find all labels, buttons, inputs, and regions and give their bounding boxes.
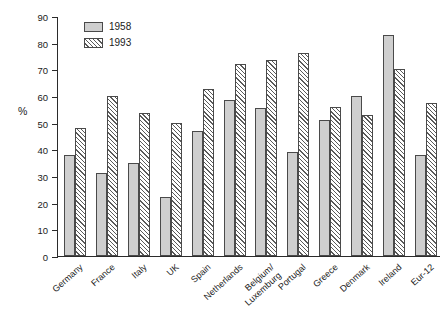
bar-1958 xyxy=(351,96,362,256)
x-tick-label: UK xyxy=(164,262,180,278)
legend-item-1993: 1993 xyxy=(84,36,131,50)
y-tick: 20 xyxy=(52,204,58,205)
bar-1993 xyxy=(139,113,150,256)
bar-1958 xyxy=(383,35,394,256)
bar-1958 xyxy=(160,197,171,256)
x-tick-label: Germany xyxy=(50,262,85,295)
y-tick: 0 xyxy=(52,257,58,258)
y-tick: 50 xyxy=(52,124,58,125)
bar-1993 xyxy=(298,53,309,256)
legend-label-1993: 1993 xyxy=(109,36,131,50)
bar-1993 xyxy=(235,64,246,256)
bar-group xyxy=(415,16,437,256)
legend-swatch-1958 xyxy=(84,22,103,32)
y-tick-label: 90 xyxy=(22,11,48,24)
y-tick-label: 70 xyxy=(22,64,48,77)
y-tick-label: 80 xyxy=(22,38,48,51)
bar-1958 xyxy=(192,131,203,256)
bar-1993 xyxy=(171,123,182,256)
y-tick-label: 60 xyxy=(22,91,48,104)
bar-1958 xyxy=(319,120,330,256)
y-tick-label: 40 xyxy=(22,144,48,157)
bar-group xyxy=(255,16,277,256)
bar-1993 xyxy=(394,69,405,256)
x-tick-label: Italy xyxy=(130,262,149,281)
x-tick-label: Denmark xyxy=(338,262,372,294)
bar-1993 xyxy=(330,107,341,256)
y-tick: 40 xyxy=(52,150,58,151)
bar-group xyxy=(64,16,86,256)
chart-legend: 1958 1993 xyxy=(84,20,131,52)
x-tick-label: Spain xyxy=(189,262,213,285)
y-axis-title: % xyxy=(18,105,27,117)
x-tick-label: Eur-12 xyxy=(409,262,436,288)
bar-group xyxy=(96,16,118,256)
bar-1993 xyxy=(75,128,86,256)
y-tick: 80 xyxy=(52,44,58,45)
bar-group xyxy=(287,16,309,256)
bar-1993 xyxy=(426,103,437,256)
bar-1958 xyxy=(224,100,235,256)
bar-group xyxy=(128,16,150,256)
y-tick-label: 20 xyxy=(22,198,48,211)
y-tick-label: 10 xyxy=(22,224,48,237)
bar-1993 xyxy=(107,96,118,256)
bar-1993 xyxy=(362,115,373,256)
y-tick-label: 50 xyxy=(22,118,48,131)
bar-1958 xyxy=(415,155,426,256)
x-tick-label: Ireland xyxy=(377,262,404,288)
legend-label-1958: 1958 xyxy=(109,20,131,34)
bar-group xyxy=(319,16,341,256)
y-tick-label: 0 xyxy=(22,251,48,264)
y-tick: 90 xyxy=(52,17,58,18)
bar-1958 xyxy=(287,152,298,256)
bar-1958 xyxy=(96,173,107,256)
y-tick-label: 30 xyxy=(22,171,48,184)
y-tick: 70 xyxy=(52,70,58,71)
bar-group xyxy=(192,16,214,256)
x-tick-label: France xyxy=(89,262,117,289)
bar-group xyxy=(351,16,373,256)
bar-chart: % 9080706050403020100 GermanyFranceItaly… xyxy=(0,0,445,310)
bar-group xyxy=(224,16,246,256)
y-tick: 30 xyxy=(52,177,58,178)
x-tick-label: Greece xyxy=(311,262,340,290)
bar-1993 xyxy=(266,60,277,256)
bar-group xyxy=(383,16,405,256)
bar-1958 xyxy=(64,155,75,256)
y-tick: 60 xyxy=(52,97,58,98)
legend-item-1958: 1958 xyxy=(84,20,131,34)
bar-1958 xyxy=(255,108,266,256)
bar-group xyxy=(160,16,182,256)
bar-1958 xyxy=(128,163,139,256)
y-tick: 10 xyxy=(52,230,58,231)
plot-area: 9080706050403020100 xyxy=(57,17,440,257)
legend-swatch-1993 xyxy=(84,38,103,48)
bar-1993 xyxy=(203,89,214,256)
